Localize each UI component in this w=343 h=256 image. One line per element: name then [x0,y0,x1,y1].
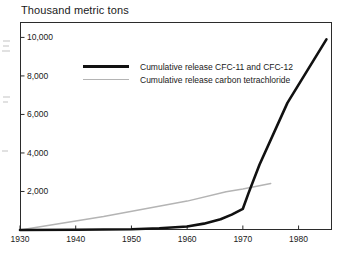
margin-artifact-mark [3,45,9,47]
x-tick-label: 1980 [289,234,308,244]
margin-artifact-mark [3,96,10,98]
y-tick-label: 6,000 [27,109,48,119]
legend-label-carbon-tetrachloride: Cumulative release carbon tetrachloride [140,75,290,85]
y-tick-label: 2,000 [27,186,48,196]
margin-artifact-mark [2,50,10,52]
margin-artifact-mark [3,101,8,103]
x-tick-label: 1950 [122,234,141,244]
x-tick-label: 1960 [178,234,197,244]
scan-margin-artifacts [0,0,16,256]
chart-legend: Cumulative release CFC-11 and CFC-12 Cum… [82,60,297,86]
chart-figure: Thousand metric tons 2,0004,0006,0008,00… [0,0,343,256]
margin-artifact-mark [3,40,10,42]
y-tick-label: 10,000 [27,32,53,42]
x-tick-label: 1970 [233,234,252,244]
plot-canvas [20,22,332,230]
margin-artifact-mark [2,150,8,152]
x-tick-label: 1930 [11,234,30,244]
x-tick-label: 1940 [66,234,85,244]
y-tick-label: 4,000 [27,148,48,158]
legend-label-cfc: Cumulative release CFC-11 and CFC-12 [140,62,293,72]
chart-title: Thousand metric tons [21,4,129,16]
legend-swatch-cfc-icon [82,65,130,68]
legend-item-carbon-tetrachloride: Cumulative release carbon tetrachloride [82,73,297,86]
series-line-carbon-tetrachloride [20,183,271,230]
legend-swatch-carbon-tetrachloride-icon [82,79,130,81]
legend-item-cfc: Cumulative release CFC-11 and CFC-12 [82,60,297,73]
y-tick-label: 8,000 [27,71,48,81]
